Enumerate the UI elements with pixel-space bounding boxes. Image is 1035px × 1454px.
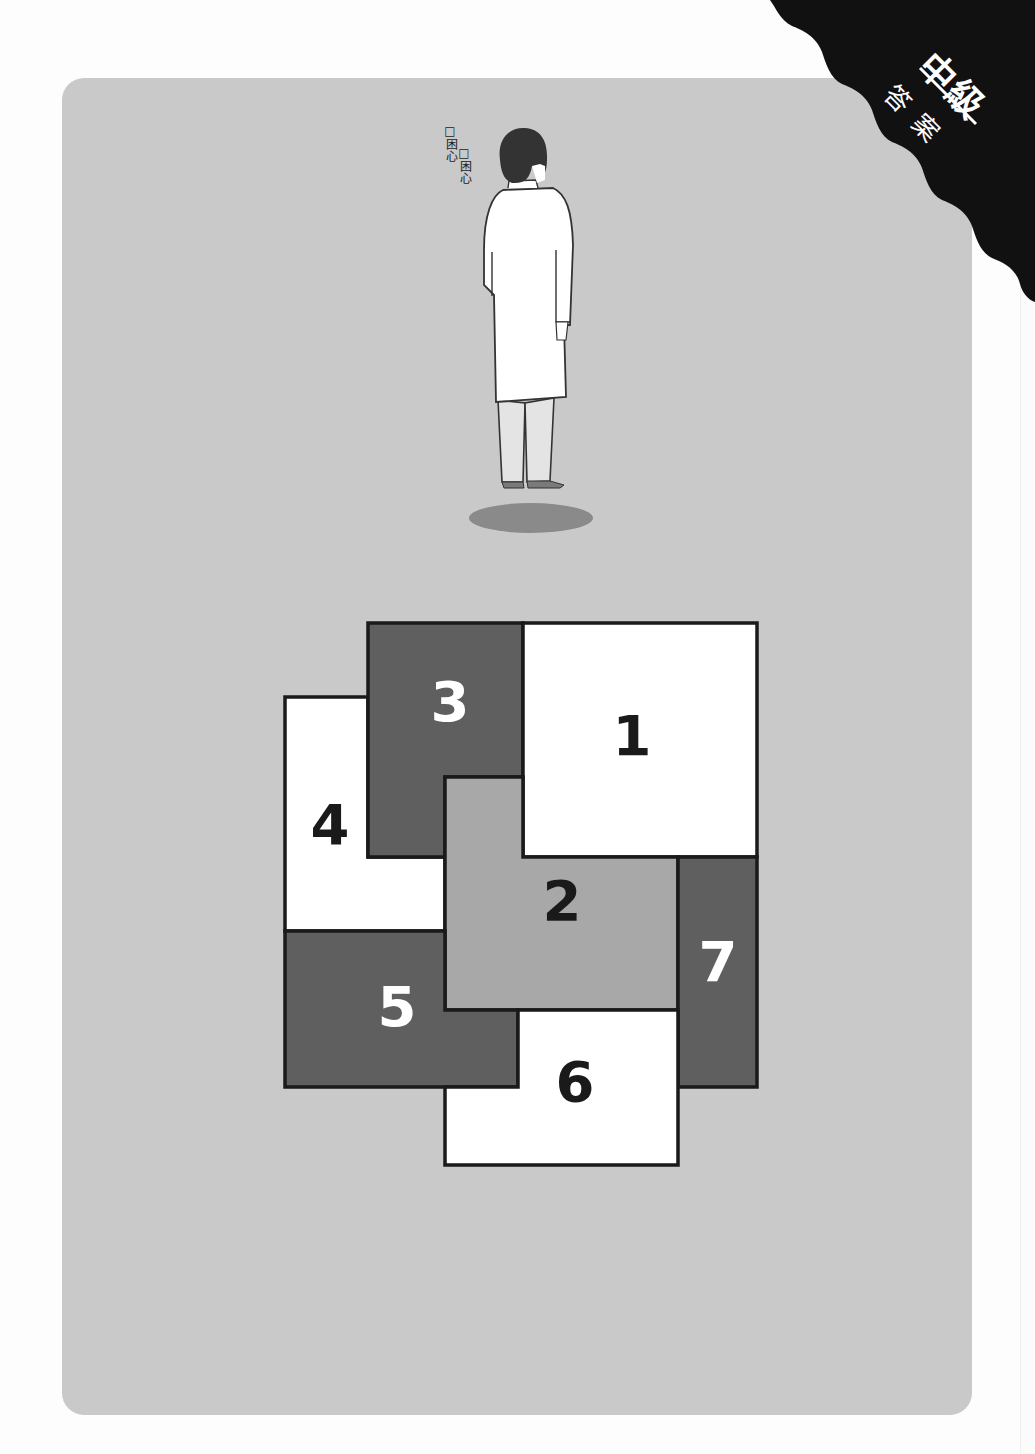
puzzle-diagram [0, 0, 1035, 1454]
piece-label-7: 7 [699, 934, 738, 990]
piece-label-4: 4 [311, 797, 350, 853]
piece-label-1: 1 [613, 708, 652, 764]
piece-label-2: 2 [543, 873, 582, 929]
piece-label-5: 5 [378, 979, 417, 1035]
piece-label-6: 6 [556, 1054, 595, 1110]
piece-label-3: 3 [431, 674, 470, 730]
